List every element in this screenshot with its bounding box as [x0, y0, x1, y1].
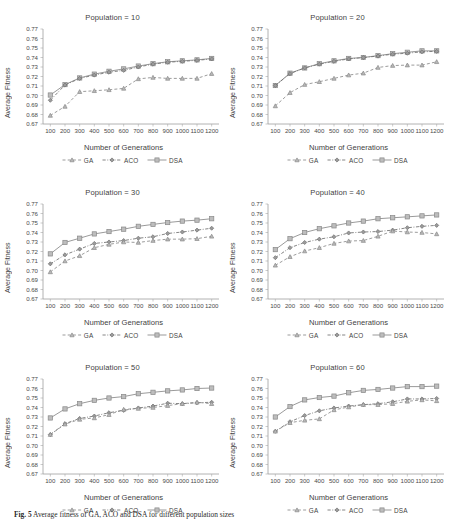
series-line-dsa: [275, 386, 436, 417]
legend-item-aco[interactable]: ACO: [327, 331, 363, 339]
svg-text:0.68: 0.68: [251, 461, 263, 468]
triangle-marker: [62, 331, 82, 339]
legend-label: DSA: [169, 157, 183, 164]
svg-text:900: 900: [388, 127, 399, 134]
series-line-dsa: [275, 51, 436, 86]
legend-item-dsa[interactable]: DSA: [372, 331, 407, 339]
svg-text:0.74: 0.74: [251, 229, 263, 236]
data-point-ga: [78, 254, 82, 258]
square-marker: [147, 331, 167, 339]
chart-svg: 0.670.680.690.700.710.720.730.740.750.76…: [0, 23, 225, 143]
square-marker: [147, 156, 167, 164]
diamond-marker: [102, 156, 122, 164]
data-point-ga: [347, 73, 351, 77]
chart-svg: 0.670.680.690.700.710.720.730.740.750.76…: [225, 23, 450, 143]
svg-text:900: 900: [163, 477, 174, 484]
legend-item-ga[interactable]: GA: [287, 156, 318, 164]
diamond-marker: [327, 156, 347, 164]
svg-text:1000: 1000: [401, 302, 415, 309]
svg-text:0.72: 0.72: [26, 423, 38, 430]
svg-text:0.76: 0.76: [26, 35, 38, 42]
svg-text:0.72: 0.72: [251, 423, 263, 430]
legend-label: GA: [84, 157, 94, 164]
legend-item-ga[interactable]: GA: [287, 331, 318, 339]
svg-text:0.69: 0.69: [251, 101, 263, 108]
svg-text:0.74: 0.74: [251, 404, 263, 411]
legend-item-aco[interactable]: ACO: [102, 156, 138, 164]
svg-text:200: 200: [60, 477, 71, 484]
data-point-dsa: [273, 247, 277, 251]
data-point-aco: [195, 228, 199, 232]
svg-text:1000: 1000: [176, 127, 190, 134]
legend-label: ACO: [124, 157, 138, 164]
svg-text:1200: 1200: [205, 302, 219, 309]
data-point-aco: [332, 235, 336, 239]
x-axis-label: Number of Generations: [0, 142, 225, 154]
svg-text:600: 600: [119, 477, 130, 484]
legend-item-aco[interactable]: ACO: [102, 331, 138, 339]
svg-text:1100: 1100: [190, 477, 204, 484]
y-axis-label: Average Fitness: [2, 403, 13, 483]
svg-text:300: 300: [75, 127, 86, 134]
svg-text:0.68: 0.68: [26, 111, 38, 118]
data-point-ga: [210, 72, 214, 76]
legend-item-dsa[interactable]: DSA: [147, 331, 182, 339]
legend-item-aco[interactable]: ACO: [327, 156, 363, 164]
data-point-dsa: [332, 224, 336, 228]
svg-text:800: 800: [148, 302, 159, 309]
data-point-dsa: [166, 220, 170, 224]
chart-svg: 0.670.680.690.700.710.720.730.740.750.76…: [225, 373, 450, 493]
data-point-aco: [376, 230, 380, 234]
plot-area: 0.670.680.690.700.710.720.730.740.750.76…: [0, 23, 225, 143]
legend-item-ga[interactable]: GA: [62, 156, 93, 164]
svg-text:0.70: 0.70: [251, 442, 263, 449]
svg-text:1100: 1100: [415, 302, 429, 309]
svg-text:0.76: 0.76: [251, 385, 263, 392]
data-point-aco: [347, 231, 351, 235]
svg-text:400: 400: [314, 302, 325, 309]
data-point-ga: [317, 417, 321, 421]
svg-text:200: 200: [285, 302, 296, 309]
series-line-aco: [50, 59, 211, 100]
svg-text:0.72: 0.72: [251, 248, 263, 255]
data-point-aco: [303, 240, 307, 244]
svg-text:0.69: 0.69: [26, 101, 38, 108]
svg-text:0.71: 0.71: [26, 432, 38, 439]
legend-item-dsa[interactable]: DSA: [147, 156, 182, 164]
triangle-marker: [287, 331, 307, 339]
data-point-dsa: [332, 394, 336, 398]
caption-text: Average fitness of GA, ACO and DSA for d…: [33, 510, 234, 519]
svg-text:600: 600: [344, 127, 355, 134]
svg-text:600: 600: [344, 477, 355, 484]
svg-text:900: 900: [388, 302, 399, 309]
svg-text:0.73: 0.73: [26, 413, 38, 420]
data-point-dsa: [288, 237, 292, 241]
chart-title: Population = 20: [225, 0, 450, 23]
svg-text:1200: 1200: [205, 477, 219, 484]
svg-text:600: 600: [119, 302, 130, 309]
data-point-aco: [78, 247, 82, 251]
series-line-ga: [50, 236, 211, 272]
legend-item-dsa[interactable]: DSA: [372, 156, 407, 164]
svg-text:400: 400: [314, 477, 325, 484]
data-point-dsa: [78, 236, 82, 240]
data-point-dsa: [405, 384, 409, 388]
x-axis-label: Number of Generations: [0, 492, 225, 504]
chart-panel-4: Population = 400.670.680.690.700.710.720…: [225, 175, 450, 350]
legend-item-ga[interactable]: GA: [62, 331, 93, 339]
data-point-dsa: [122, 394, 126, 398]
data-point-dsa: [92, 398, 96, 402]
svg-text:0.69: 0.69: [26, 276, 38, 283]
chart-legend: GAACODSA: [225, 329, 450, 341]
svg-text:0.77: 0.77: [26, 25, 38, 32]
diamond-marker: [102, 331, 122, 339]
chart-svg: 0.670.680.690.700.710.720.730.740.750.76…: [0, 373, 225, 493]
chart-title: Population = 50: [0, 350, 225, 373]
square-marker: [372, 156, 392, 164]
svg-text:0.70: 0.70: [251, 267, 263, 274]
series-line-ga: [275, 62, 436, 106]
svg-text:800: 800: [148, 127, 159, 134]
y-axis-label: Average Fitness: [227, 403, 238, 483]
data-point-dsa: [435, 384, 439, 388]
data-point-ga: [435, 60, 439, 64]
